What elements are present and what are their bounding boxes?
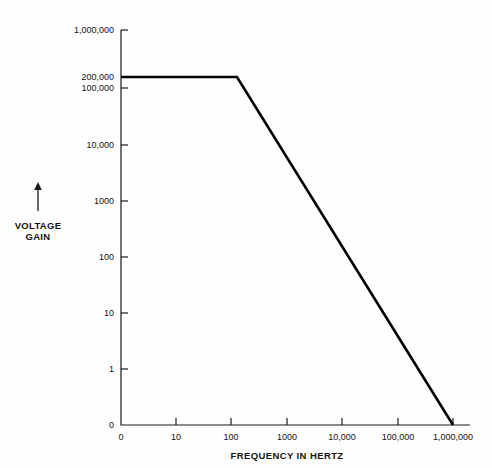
chart-figure: 1,000,000 200,000 100,000 10,000 1000 10… [0, 0, 492, 468]
y-tick-labels: 1,000,000 200,000 100,000 10,000 1000 10… [74, 25, 114, 430]
x-tick-labels: 0 10 100 1000 10,000 100,000 1,000,000 [118, 432, 473, 442]
x-axis-label-0: 0 [118, 432, 123, 442]
y-axis-label-1000000: 1,000,000 [74, 25, 114, 35]
y-axis-label-10: 10 [104, 308, 114, 318]
y-axis-title-block: VOLTAGE GAIN [15, 182, 62, 242]
y-axis-label-100: 100 [99, 252, 114, 262]
gain-response-curve [121, 77, 453, 425]
x-axis-label-100: 100 [223, 432, 238, 442]
y-axis-label-1000: 1000 [94, 196, 114, 206]
y-axis-label-10000: 10,000 [86, 140, 114, 150]
y-axis-label-0: 0 [109, 420, 114, 430]
y-axis-label-1: 1 [109, 364, 114, 374]
up-arrow-icon-head [34, 182, 42, 190]
y-axis-title-line2: GAIN [26, 231, 51, 242]
x-axis-label-10: 10 [171, 432, 181, 442]
x-axis-label-1000: 1000 [277, 432, 297, 442]
x-axis-label-10000: 10,000 [328, 432, 356, 442]
x-axis-title: FREQUENCY IN HERTZ [230, 450, 343, 461]
bode-plot-svg: 1,000,000 200,000 100,000 10,000 1000 10… [0, 0, 492, 468]
y-axis-title-line1: VOLTAGE [15, 220, 62, 231]
x-tick-marks [176, 418, 453, 425]
x-axis-label-100000: 100,000 [382, 432, 415, 442]
x-axis-label-1000000: 1,000,000 [433, 432, 473, 442]
y-axis-label-100000: 100,000 [81, 83, 114, 93]
y-axis-label-200000: 200,000 [81, 72, 114, 82]
y-tick-marks [121, 30, 128, 369]
